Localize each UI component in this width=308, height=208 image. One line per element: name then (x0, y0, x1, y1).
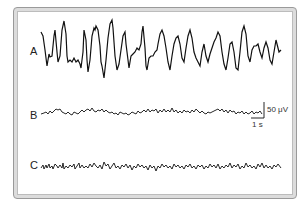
scale-bar (251, 102, 264, 118)
trace-b (41, 108, 262, 115)
trace-c (41, 162, 281, 171)
amplitude-scale-label: 50 μV (267, 105, 288, 114)
time-scale-label: 1 s (252, 120, 263, 129)
trace-a (41, 20, 281, 78)
eeg-traces (0, 0, 308, 208)
